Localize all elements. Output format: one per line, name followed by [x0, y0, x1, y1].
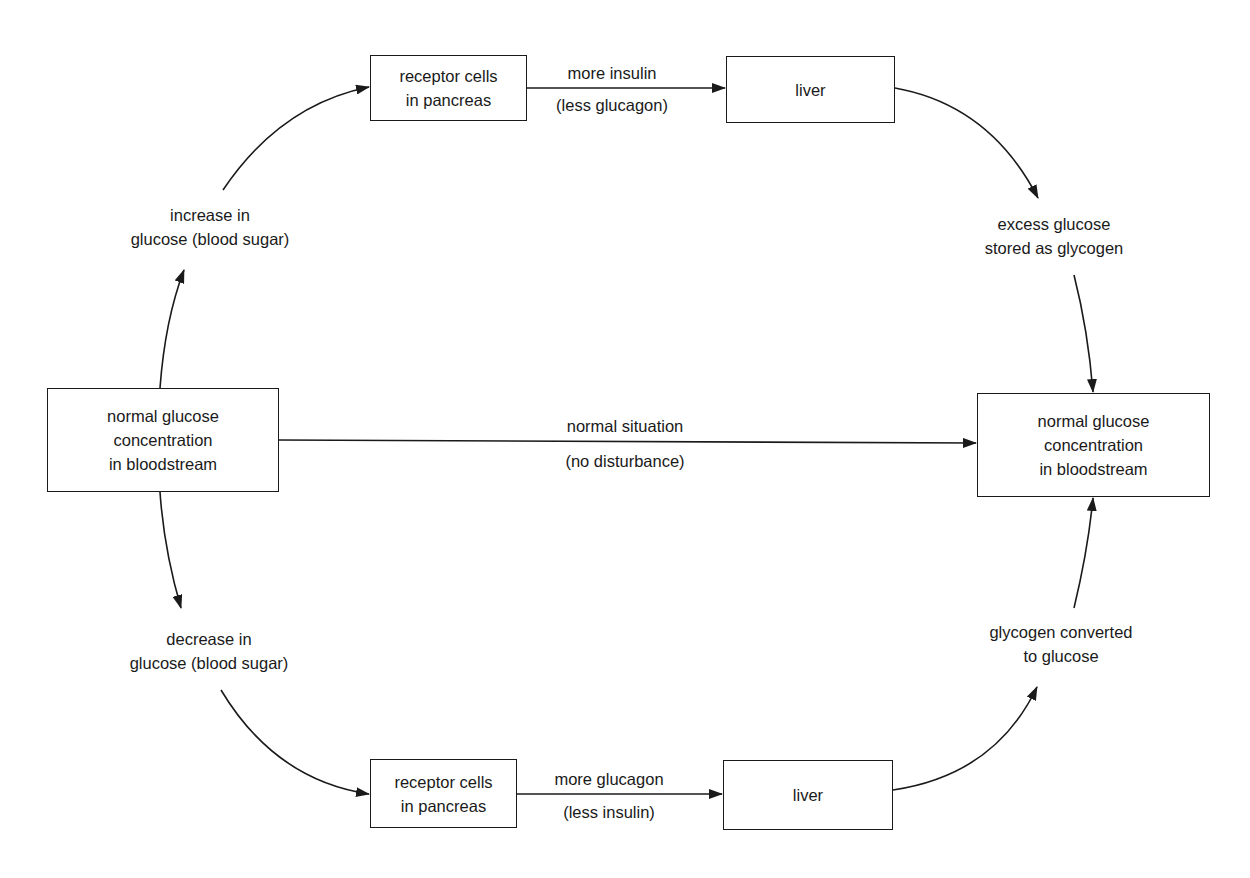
label-line: stored as glycogen — [985, 236, 1124, 260]
increase-label: increase in glucose (blood sugar) — [131, 203, 290, 251]
box-line: concentration — [1044, 433, 1143, 457]
arrow-start-to-increase — [160, 270, 184, 388]
label-line: to glucose — [989, 644, 1132, 668]
bottom-liver-box: liver — [723, 760, 893, 830]
arrow-start-to-decrease — [160, 492, 181, 608]
decrease-label: decrease in glucose (blood sugar) — [130, 627, 289, 675]
no-disturbance-label: (no disturbance) — [565, 449, 684, 473]
box-line: in bloodstream — [109, 452, 217, 476]
start-box-normal-glucose: normal glucose concentration in bloodstr… — [47, 388, 279, 492]
excess-glucose-label: excess glucose stored as glycogen — [985, 212, 1124, 260]
box-line: normal glucose — [107, 404, 219, 428]
arrow-liver-to-converted — [893, 687, 1037, 790]
box-line: in pancreas — [406, 88, 491, 112]
box-line: liver — [793, 783, 823, 807]
arrow-normal-situation — [279, 440, 976, 443]
normal-situation-label: normal situation — [567, 414, 683, 438]
arrow-increase-to-receptor — [223, 87, 369, 190]
arrow-decrease-to-receptor — [221, 690, 369, 794]
box-line: concentration — [113, 428, 212, 452]
glycogen-converted-label: glycogen converted to glucose — [989, 620, 1132, 668]
bottom-receptor-box: receptor cells in pancreas — [370, 759, 517, 828]
label-line: glucose (blood sugar) — [130, 651, 289, 675]
more-insulin-label: more insulin — [568, 61, 657, 85]
arrow-converted-to-end — [1074, 498, 1093, 608]
more-glucagon-label: more glucagon — [554, 767, 663, 791]
box-line: receptor cells — [394, 770, 492, 794]
top-receptor-box: receptor cells in pancreas — [370, 55, 527, 121]
box-line: in pancreas — [401, 794, 486, 818]
label-line: increase in — [131, 203, 290, 227]
label-line: glycogen converted — [989, 620, 1132, 644]
label-line: decrease in — [130, 627, 289, 651]
end-box-normal-glucose: normal glucose concentration in bloodstr… — [977, 393, 1210, 497]
arrow-liver-to-excess — [895, 88, 1038, 198]
less-insulin-label: (less insulin) — [563, 800, 655, 824]
box-line: liver — [795, 78, 825, 102]
box-line: normal glucose — [1038, 409, 1150, 433]
top-liver-box: liver — [726, 56, 895, 123]
less-glucagon-label: (less glucagon) — [556, 93, 668, 117]
label-line: glucose (blood sugar) — [131, 227, 290, 251]
box-line: receptor cells — [399, 64, 497, 88]
box-line: in bloodstream — [1039, 457, 1147, 481]
label-line: excess glucose — [985, 212, 1124, 236]
arrow-excess-to-end — [1074, 275, 1093, 392]
